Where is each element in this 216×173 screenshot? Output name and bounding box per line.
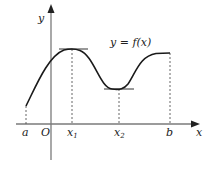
- curve-label: y = f(x): [109, 36, 151, 49]
- x-axis-label: x: [196, 126, 203, 139]
- tick-label-x1: x1: [67, 126, 78, 140]
- tick-label-b: b: [166, 126, 173, 139]
- tick-label-a: a: [22, 126, 29, 139]
- y-axis-arrow-icon: [48, 4, 55, 13]
- function-graph: y x y = f(x) a O x1 x2 b: [0, 0, 216, 173]
- tick-label-origin: O: [41, 126, 50, 139]
- function-curve: [26, 49, 170, 106]
- y-axis-label: y: [37, 12, 45, 25]
- tick-label-x2: x2: [114, 126, 125, 140]
